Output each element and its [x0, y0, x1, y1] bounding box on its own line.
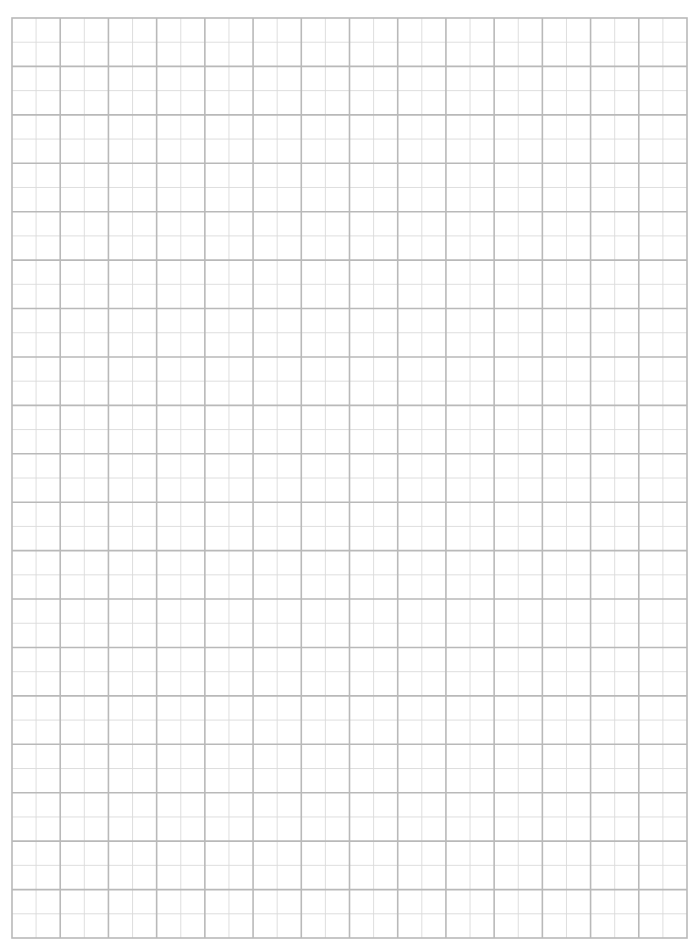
grid	[0, 0, 699, 947]
graph-paper-sheet	[0, 0, 699, 947]
